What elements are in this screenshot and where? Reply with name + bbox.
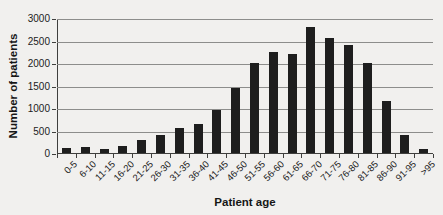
bar-91-95 (400, 135, 409, 153)
bar-46-50 (231, 88, 240, 153)
x-tick-18 (395, 154, 396, 158)
x-tick-10 (245, 154, 246, 158)
y-tick-1000 (52, 109, 56, 110)
bar->95 (419, 149, 428, 153)
x-tick-5 (151, 154, 152, 158)
x-tick-12 (283, 154, 284, 158)
y-tick-label-1500: 1500 (10, 82, 50, 92)
bar-chart-figure: Number of patients Patient age 050010001… (0, 0, 443, 215)
gridline-2500 (57, 42, 433, 43)
x-tick-20 (433, 154, 434, 158)
x-tick-13 (301, 154, 302, 158)
x-tick-4 (132, 154, 133, 158)
bar-61-65 (288, 54, 297, 153)
bar-31-35 (175, 128, 184, 153)
x-tick-3 (113, 154, 114, 158)
x-tick-9 (226, 154, 227, 158)
bar-6-10 (81, 147, 90, 153)
gridline-2000 (57, 64, 433, 65)
bar-86-90 (382, 101, 391, 153)
y-tick-2500 (52, 42, 56, 43)
gridline-3000 (57, 19, 433, 20)
bar-26-30 (156, 135, 165, 153)
y-tick-label-0: 0 (10, 149, 50, 159)
bar-36-40 (194, 124, 203, 153)
plot-area (57, 19, 433, 154)
y-tick-label-2000: 2000 (10, 59, 50, 69)
x-tick-7 (189, 154, 190, 158)
y-tick-label-2500: 2500 (10, 37, 50, 47)
y-tick-0 (52, 154, 56, 155)
gridline-1500 (57, 87, 433, 88)
x-tick-6 (170, 154, 171, 158)
bar-76-80 (344, 45, 353, 153)
y-tick-label-1000: 1000 (10, 104, 50, 114)
bar-16-20 (118, 146, 127, 153)
x-tick-1 (76, 154, 77, 158)
y-tick-label-3000: 3000 (10, 14, 50, 24)
bar-41-45 (212, 110, 221, 153)
bar-0-5 (62, 148, 71, 153)
x-tick-16 (358, 154, 359, 158)
x-tick-15 (339, 154, 340, 158)
x-tick-2 (95, 154, 96, 158)
x-tick-8 (207, 154, 208, 158)
y-tick-label-500: 500 (10, 127, 50, 137)
bar-11-15 (100, 149, 109, 154)
bar-71-75 (325, 38, 334, 153)
y-tick-500 (52, 132, 56, 133)
y-tick-3000 (52, 19, 56, 20)
bar-56-60 (269, 52, 278, 153)
x-tick-0 (57, 154, 58, 158)
gridline-500 (57, 132, 433, 133)
gridline-1000 (57, 109, 433, 110)
bar-21-25 (137, 140, 146, 153)
bar-51-55 (250, 63, 259, 153)
y-tick-1500 (52, 87, 56, 88)
bar-81-85 (363, 63, 372, 153)
x-tick-14 (320, 154, 321, 158)
x-tick-19 (414, 154, 415, 158)
bar-66-70 (306, 27, 315, 153)
x-tick-17 (377, 154, 378, 158)
y-tick-2000 (52, 64, 56, 65)
x-tick-11 (264, 154, 265, 158)
